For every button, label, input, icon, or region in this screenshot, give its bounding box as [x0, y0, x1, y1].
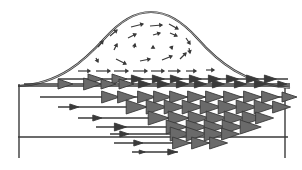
arrowhead-icon	[174, 34, 177, 36]
velocity-arrowhead-icon	[157, 80, 169, 88]
velocity-arrowhead-icon	[282, 92, 297, 102]
velocity-arrowhead-icon	[126, 100, 147, 114]
velocity-arrowhead-icon	[176, 80, 188, 88]
arrowhead-icon	[126, 70, 128, 73]
velocity-arrowhead-icon	[70, 104, 79, 110]
arrowhead-icon	[145, 70, 147, 73]
velocity-arrowhead-icon	[273, 101, 291, 113]
velocity-arrowhead-icon	[264, 75, 276, 83]
vortex-arrows	[78, 23, 214, 72]
velocity-arrowhead-icon	[120, 131, 129, 137]
velocity-arrowhead-icon	[168, 149, 177, 155]
arrowhead-icon	[133, 44, 136, 46]
velocity-arrowhead-icon	[93, 115, 102, 121]
velocity-arrowhead-icon	[234, 80, 246, 88]
velocity-arrowhead-icon	[256, 112, 274, 124]
velocity-arrowhead-icon	[194, 80, 206, 88]
arrowhead-icon	[148, 58, 150, 61]
arrowhead-icon	[160, 24, 162, 27]
flow-field-figure	[0, 0, 302, 170]
arrowhead-icon	[108, 70, 110, 73]
arrowhead-icon	[194, 70, 196, 73]
arrowhead-icon	[212, 69, 214, 72]
arrowhead-icon	[162, 70, 164, 73]
arrowhead-icon	[141, 23, 143, 26]
velocity-arrowhead-icon	[134, 140, 143, 146]
velocity-arrowhead-icon	[114, 123, 126, 131]
arrowhead-icon	[170, 46, 173, 49]
arrowhead-icon	[115, 44, 117, 47]
velocity-arrowhead-icon	[58, 79, 73, 89]
arrowhead-icon	[188, 51, 191, 53]
velocity-arrowhead-icon	[262, 91, 280, 103]
arrowhead-icon	[178, 70, 180, 73]
arrowhead-icon	[123, 62, 126, 64]
arrowhead-icon	[133, 34, 136, 36]
velocity-arrowhead-icon	[102, 91, 120, 103]
arrowhead-icon	[158, 32, 160, 35]
flow-diagram	[0, 0, 302, 170]
arrowhead-icon	[152, 46, 155, 48]
velocity-arrowhead-icon	[212, 80, 224, 88]
velocity-arrowhead-icon	[139, 150, 145, 154]
velocity-arrowhead-icon	[138, 80, 150, 88]
velocity-vector-rows	[24, 74, 297, 155]
arrowhead-icon	[88, 70, 90, 73]
arrowhead-icon	[96, 59, 98, 62]
arrowhead-icon	[169, 56, 172, 58]
